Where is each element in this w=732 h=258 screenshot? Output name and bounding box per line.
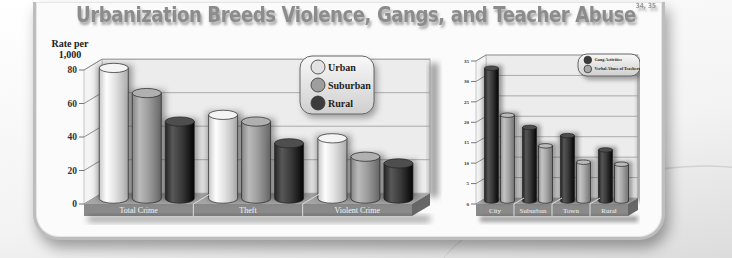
bar — [130, 88, 165, 203]
bar — [499, 112, 519, 203]
y-tick-label: 35 — [464, 59, 470, 64]
category-label: Suburban — [520, 207, 547, 215]
y-tick-label: 20 — [464, 120, 470, 125]
page-title: Urbanization Breeds Violence, Gangs, and… — [66, 2, 666, 27]
y-tick-label: 60 — [68, 99, 78, 109]
gang-abuse-chart: 05101520253035CitySuburbanTownRuralGang … — [460, 40, 640, 226]
bar — [537, 143, 557, 203]
legend-label: Suburban — [328, 80, 371, 91]
y-tick-label: 15 — [464, 140, 470, 145]
legend-label: Gang Activities — [595, 57, 623, 62]
legend-swatch — [311, 96, 325, 110]
bar — [240, 117, 275, 203]
legend: Gang ActivitiesVerbal Abuse of Teachers — [578, 54, 640, 80]
bar — [163, 117, 198, 203]
category-label: City — [489, 207, 502, 215]
legend-swatch — [584, 56, 592, 64]
legend-label: Rural — [328, 98, 353, 109]
bar — [575, 159, 595, 203]
category-label: Town — [563, 207, 579, 215]
legend-swatch — [584, 65, 592, 73]
legend-item: Suburban — [311, 78, 371, 92]
category-label: Theft — [239, 206, 257, 215]
y-tick-label: 0 — [467, 202, 470, 207]
legend-swatch — [311, 60, 325, 74]
legend-label: Urban — [328, 62, 356, 73]
y-tick-label: 5 — [467, 181, 470, 186]
legend-item: Urban — [311, 60, 356, 74]
title-text: Urbanization Breeds Violence, Gangs, and… — [76, 2, 636, 27]
bar — [207, 110, 242, 203]
category-label: Rural — [601, 207, 617, 215]
bar — [273, 139, 308, 204]
bar — [613, 161, 633, 203]
category-label: Total Crime — [120, 206, 159, 215]
y-axis-label: Rate per — [52, 38, 89, 49]
y-tick-label: 80 — [68, 65, 78, 75]
category-label: Violent Crime — [335, 206, 381, 215]
y-tick-label: 10 — [464, 161, 470, 166]
bar — [316, 134, 351, 204]
y-tick-label: 25 — [464, 100, 470, 105]
legend-item: Rural — [311, 96, 353, 110]
legend-label: Verbal Abuse of Teachers — [595, 66, 640, 71]
y-tick-label: 20 — [68, 166, 78, 176]
title-footnote: 34, 35 — [636, 2, 656, 10]
legend-swatch — [311, 78, 325, 92]
y-tick-label: 0 — [72, 199, 77, 209]
y-tick-label: 40 — [68, 132, 78, 142]
y-tick-label: 30 — [464, 79, 470, 84]
bar — [97, 63, 132, 203]
bar — [382, 159, 417, 203]
crime-rate-chart: 020406080Rate per1,000Total CrimeTheftVi… — [48, 36, 448, 226]
y-axis-label: 1,000 — [59, 49, 82, 60]
bar — [349, 152, 384, 203]
legend: UrbanSuburbanRural — [300, 56, 377, 118]
